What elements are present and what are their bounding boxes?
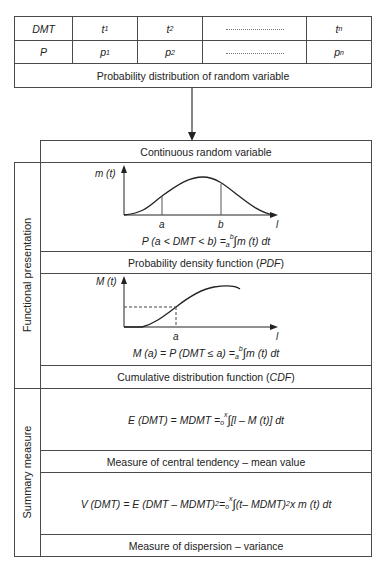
cdf-x-axis-label: l: [276, 331, 278, 342]
table-cell-ellipsis: [203, 17, 306, 40]
table-cell-p2: p2: [138, 41, 202, 63]
pdf-y-axis-label: m (t): [95, 168, 116, 179]
formula-lhs: E (DMT) = MDMT =: [128, 414, 220, 426]
table-cell-pn: pn: [307, 41, 371, 63]
table-cell-p1: p1: [73, 41, 137, 63]
dotted-leader: [226, 53, 284, 54]
cdf-caption: Cumulative distribution function (CDF): [41, 366, 371, 388]
pdf-marker-a: a: [159, 219, 165, 230]
pdf-curve-plot: [90, 163, 290, 231]
caption-text: ): [280, 257, 284, 269]
variance-formula: V (DMT) = E (DMT – MDMT)2 = o x ∫ (t– MD…: [41, 473, 371, 534]
mean-caption: Measure of central tendency – mean value: [41, 451, 371, 472]
pdf-formula: P (a < DMT < b) = a b ∫ m (t) dt: [41, 232, 371, 250]
cell-subscript: 1: [105, 25, 109, 32]
formula-lhs: P (a < DMT < b) =: [142, 235, 226, 247]
integral-lower-limit: a: [226, 241, 230, 248]
outer-border-left: [14, 162, 15, 557]
caption-abbrev: PDF: [259, 257, 280, 269]
integral-sign-icon: ∫: [228, 413, 231, 427]
integral-lower-limit: o: [225, 503, 229, 510]
cell-subscript: n: [339, 25, 343, 32]
cdf-y-axis-label: M (t): [96, 276, 117, 287]
cell-subscript: 2: [170, 25, 174, 32]
integral-lower-limit: o: [220, 419, 224, 426]
cdf-marker-a: a: [173, 331, 179, 342]
table-caption: Probability distribution of random varia…: [15, 64, 371, 87]
outer-border-bottom: [14, 556, 372, 557]
formula-rhs: m (t) dt: [237, 235, 270, 247]
dotted-leader: [226, 29, 284, 30]
formula-tail: x m (t) dt: [290, 498, 331, 510]
table-cell-t2: t2: [138, 17, 202, 40]
formula-rhs: m (t) dt: [246, 347, 279, 359]
caption-text: ): [291, 371, 295, 383]
pdf-x-axis-label: l: [276, 219, 278, 230]
formula-rhs: [l – M (t)] dt: [231, 414, 284, 426]
row-label-p: P: [15, 41, 72, 63]
row-label-dmt: DMT: [15, 17, 72, 40]
continuous-header: Continuous random variable: [41, 141, 371, 162]
cdf-curve-plot: [90, 274, 290, 340]
side-label-functional: Functional presentation: [21, 211, 35, 339]
formula-rhs: (t– MDMT): [236, 498, 286, 510]
cell-subscript: 2: [171, 49, 175, 56]
table-cell-ellipsis: [203, 41, 306, 63]
table-cell-t1: t1: [73, 17, 137, 40]
integral-sign-icon: ∫: [243, 346, 246, 360]
cell-subscript: 1: [106, 49, 110, 56]
cdf-formula: M (a) = P (DMT ≤ a) = a b ∫ m (t) dt: [41, 344, 371, 362]
caption-abbrev: CDF: [270, 371, 292, 383]
side-label-summary: Summary measure: [21, 421, 35, 523]
pdf-caption: Probability density function (PDF): [41, 252, 371, 273]
pdf-marker-b: b: [218, 219, 224, 230]
down-arrow-icon: [186, 87, 198, 142]
integral-sign-icon: ∫: [234, 234, 237, 248]
caption-text: Cumulative distribution function (: [117, 371, 269, 383]
table-border-right: [371, 16, 372, 88]
outer-border-right: [371, 140, 372, 557]
table-cell-tn: tn: [307, 17, 371, 40]
caption-text: Probability density function (: [128, 257, 259, 269]
integral-sign-icon: ∫: [233, 497, 236, 511]
cell-subscript: n: [340, 49, 344, 56]
formula-lhs: M (a) = P (DMT ≤ a) =: [133, 347, 235, 359]
formula-lhs: V (DMT) = E (DMT – MDMT): [81, 498, 215, 510]
integral-lower-limit: a: [235, 353, 239, 360]
mean-formula: E (DMT) = MDMT = o x ∫ [l – M (t)] dt: [41, 389, 371, 450]
variance-caption: Measure of dispersion – variance: [41, 535, 371, 556]
